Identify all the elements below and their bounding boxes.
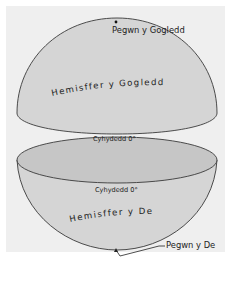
equator-label-lower: Cyhydedd 0° (95, 186, 138, 194)
north-pole-dot (115, 21, 118, 24)
north-pole-label: Pegwn y Gogledd (112, 25, 185, 35)
south-pole-label: Pegwn y De (166, 240, 215, 250)
hemispheres-diagram: Pegwn y Gogledd Hemisffer y Gogledd Cyhy… (0, 0, 230, 283)
equator-plane (17, 137, 217, 183)
equator-label-upper: Cyhydedd 0° (93, 135, 136, 143)
